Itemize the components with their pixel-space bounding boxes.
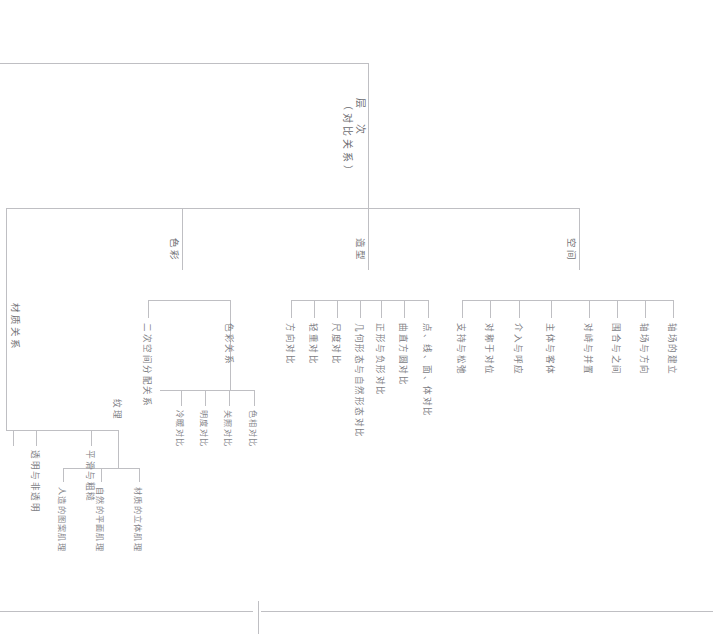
leaf-color-rel-1: 关照对比 (223, 410, 232, 447)
form-tick-5 (337, 300, 338, 318)
leaf-space-2: 围合与之间 (611, 323, 620, 376)
leaf-space-7: 支持与松弛 (456, 323, 465, 376)
leaf-color-rel-0: 色相对比 (248, 410, 257, 447)
leaf-texture-0: 材质的立体肌理 (133, 487, 142, 552)
branch-label-space: 空间 (567, 238, 576, 262)
color-tick-1 (230, 300, 231, 318)
leaf-form-1: 曲直方圆对比 (398, 323, 407, 386)
space-tick-6 (519, 300, 520, 318)
branch-stem-color (182, 208, 183, 270)
branch-stem-form (368, 208, 369, 270)
root-spine-line (0, 63, 368, 64)
texture-tick-2 (101, 468, 102, 482)
leaf-color-0: 二次空间分配关系 (142, 323, 151, 407)
color-relation-bus-line (160, 390, 254, 391)
page-footer-tick (258, 601, 259, 634)
color-leaf-bus-line (148, 300, 230, 301)
space-tick-1 (673, 300, 674, 318)
color-rel-tick-3 (205, 390, 206, 406)
leaf-material-1: 平滑与粗糙 (85, 450, 94, 503)
form-tick-1 (428, 300, 429, 318)
form-tick-4 (360, 300, 361, 318)
material-tick-3 (36, 430, 37, 446)
leaf-color-1: 色彩关系 (224, 323, 233, 365)
leaf-form-6: 方向对比 (285, 323, 294, 365)
leaf-form-0: 点、线、面、体对比 (422, 323, 431, 418)
leaf-color-rel-2: 明度对比 (199, 410, 208, 447)
color-rel-tick-4 (181, 390, 182, 406)
space-tick-4 (589, 300, 590, 318)
space-leaf-bus-line (462, 300, 579, 301)
leaf-space-6: 对称于对位 (484, 323, 493, 376)
texture-tick-3 (63, 468, 64, 482)
branch-label-material: 材质关系 (11, 303, 20, 351)
leaf-material-0: 纹理 (112, 399, 121, 420)
form-tick-2 (404, 300, 405, 318)
space-leaf-bus-line-upper (579, 300, 674, 301)
leaf-form-3: 几何形态与自然形态对比 (354, 323, 363, 439)
leaf-space-4: 主体与客体 (545, 323, 554, 376)
leaf-form-4: 尺度对比 (331, 323, 340, 365)
page-footer-rule-right (261, 611, 713, 612)
root-label: 层 次 (356, 98, 365, 137)
diagram-canvas: 层 次 （对比关系） 空间 造型 色彩 材质关系 轴场的建立 轴场与方向 围合与… (0, 0, 713, 634)
leaf-color-rel-3: 冷暖对比 (175, 410, 184, 447)
material-stem-down (6, 304, 7, 430)
page-footer-rule-left (0, 611, 253, 612)
material-tick-2 (91, 430, 92, 446)
branch-label-form: 造型 (356, 238, 365, 262)
space-tick-2 (645, 300, 646, 318)
leaf-space-0: 轴场的建立 (667, 323, 676, 376)
branch-stem-material (6, 208, 7, 304)
form-tick-6 (314, 300, 315, 318)
root-sublabel: （对比关系） (343, 100, 352, 178)
color-rel-tick-1 (254, 390, 255, 406)
texture-tick-1 (139, 468, 140, 482)
level1-bus-line (6, 208, 579, 209)
leaf-form-5: 轻重对比 (308, 323, 317, 365)
root-stem-line (368, 63, 369, 208)
space-tick-8 (462, 300, 463, 318)
material-leaf-bus-line (13, 430, 118, 431)
leaf-texture-1: 自然的平面肌理 (95, 487, 104, 552)
space-tick-7 (490, 300, 491, 318)
leaf-space-5: 介入与呼应 (513, 323, 522, 376)
form-tick-7 (291, 300, 292, 318)
space-tick-5 (551, 300, 552, 318)
leaf-material-2: 透明与非透明 (30, 450, 39, 513)
material-tick-4 (13, 430, 14, 446)
branch-label-color: 色彩 (170, 238, 179, 262)
form-tick-3 (381, 300, 382, 318)
space-tick-3 (617, 300, 618, 318)
leaf-space-1: 轴场与方向 (639, 323, 648, 376)
leaf-form-2: 正形与负形对比 (375, 323, 384, 397)
leaf-space-3: 对峙与并置 (583, 323, 592, 376)
leaf-texture-2: 人造的图案肌理 (57, 487, 66, 552)
material-tick-1 (118, 430, 119, 446)
branch-stem-space (579, 208, 580, 270)
color-tick-2 (148, 300, 149, 318)
color-rel-tick-2 (229, 390, 230, 406)
texture-stem (118, 446, 119, 468)
